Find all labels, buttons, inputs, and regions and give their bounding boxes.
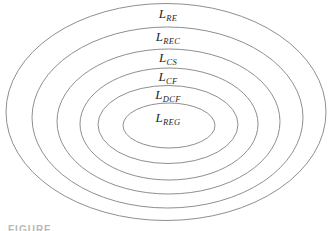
label-l-re-sub: RE [166,13,177,23]
figure-caption: FIGURE [8,224,52,231]
label-l-rec: LREC [156,30,180,43]
label-l-cf-sub: CF [166,76,177,86]
label-l-cs: LCS [159,51,177,64]
label-l-cs-sub: CS [166,57,177,67]
euler-diagram: LRE LREC LCS LCF LDCF LREG FIGURE [0,0,333,231]
label-l-reg: LREG [156,111,181,124]
label-l-dcf: LDCF [155,88,180,101]
label-l-cf: LCF [159,70,178,83]
label-l-re: LRE [159,7,177,20]
label-l-reg-sub: REG [163,117,180,127]
label-l-dcf-sub: DCF [163,94,181,104]
label-l-rec-sub: REC [163,36,180,46]
